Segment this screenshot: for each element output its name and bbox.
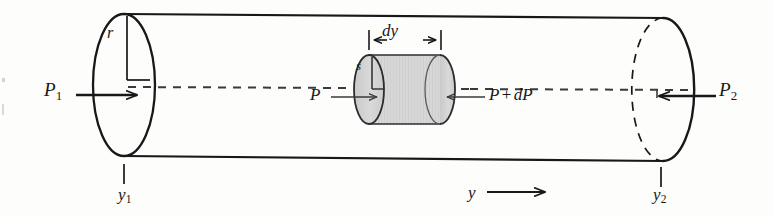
differential-element	[354, 55, 455, 124]
element-right-cap-fill	[440, 55, 455, 124]
element-length-dimension	[369, 30, 441, 50]
scan-artifacts	[2, 78, 5, 115]
pipe-flow-figure: P1 P2 P P+dP r s dy y1 y2 y	[0, 0, 774, 217]
axis-label: y	[468, 184, 476, 201]
pressure-inlet-label: P1	[44, 80, 62, 103]
pressure-outlet-label: P2	[719, 80, 737, 103]
pipe-radius-indicator	[127, 16, 150, 80]
position-end-label: y2	[653, 186, 667, 206]
position-start-label: y1	[118, 186, 132, 206]
element-length-label: dy	[382, 22, 398, 39]
pipe-bottom-wall	[124, 156, 663, 161]
element-pressure-left-label: P	[310, 86, 320, 103]
pipe-left-cap	[93, 14, 155, 156]
element-radius-label: s	[356, 59, 361, 72]
pipe-radius-label: r	[107, 25, 113, 41]
pipe-top-wall	[124, 14, 663, 18]
element-pressure-right-label: P+dP	[489, 86, 533, 103]
